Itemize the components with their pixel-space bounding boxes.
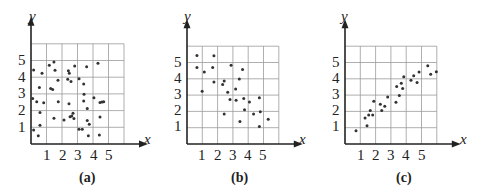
data-point [395,85,398,88]
data-point [367,113,370,116]
data-point [435,70,438,73]
scatter-plot-c [0,0,483,192]
data-point [366,124,369,127]
grid [345,46,437,144]
x-tick-2: 2 [372,148,380,163]
x-axis-label: x [460,132,467,147]
y-axis-label: y [341,9,348,24]
x-tick-4: 4 [402,148,410,163]
panel-caption: (c) [396,170,412,186]
data-point [401,87,404,90]
y-tick-1: 1 [332,119,340,134]
data-point [426,64,429,67]
data-point [416,81,419,84]
y-tick-4: 4 [332,71,340,86]
data-point [372,100,375,103]
x-tick-1: 1 [357,148,365,163]
data-point [400,82,403,85]
x-tick-5: 5 [418,148,426,163]
data-point [369,109,372,112]
data-point [418,70,421,73]
data-point [364,116,367,119]
data-point [371,113,374,116]
data-point [386,95,389,98]
data-point [402,75,405,78]
scatter-panel-c: y x 1 2 3 4 5 5 4 3 2 1 (c) [0,0,483,192]
data-point [383,105,386,108]
y-tick-2: 2 [332,103,340,118]
data-points [355,64,438,132]
y-tick-5: 5 [332,55,340,70]
data-point [355,129,358,132]
x-tick-3: 3 [387,148,395,163]
data-point [398,94,401,97]
y-tick-3: 3 [332,87,340,102]
data-point [379,103,382,106]
data-point [412,74,415,77]
data-point [394,101,397,104]
data-point [429,73,432,76]
data-point [380,109,383,112]
data-point [409,79,412,82]
